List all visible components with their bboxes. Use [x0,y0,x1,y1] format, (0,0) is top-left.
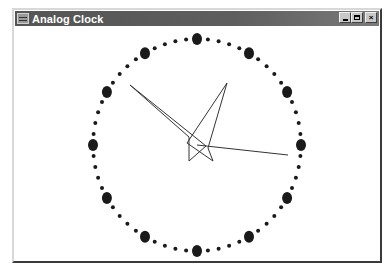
minute-marker-dot [92,154,96,158]
minute-marker-dot [118,214,122,218]
clock-face [0,2,392,275]
hour-marker-dot [282,192,292,204]
hour-hand [187,83,227,161]
minute-marker-dot [206,248,210,252]
minute-marker-dot [93,121,97,125]
hour-marker-dot [296,139,306,151]
minute-marker-dot [265,222,269,226]
hour-marker-dot [192,245,202,257]
minute-marker-dot [290,186,294,190]
minute-marker-dot [163,244,167,248]
minute-marker-dot [96,110,100,114]
minute-marker-dot [298,154,302,158]
hour-marker-dot [102,192,112,204]
minute-marker-dot [237,46,241,50]
minute-marker-dot [272,72,276,76]
minute-marker-dot [265,64,269,68]
minute-marker-dot [100,186,104,190]
minute-marker-dot [294,176,298,180]
minute-marker-dot [184,248,188,252]
minute-marker-dot [256,229,260,233]
minute-marker-dot [153,46,157,50]
minute-marker-dot [184,38,188,42]
hour-marker-dot [282,86,292,98]
minute-marker-dot [227,42,231,46]
minute-marker-dot [93,165,97,169]
minute-marker-dot [217,247,221,251]
minute-marker-dot [227,244,231,248]
minute-marker-dot [92,132,96,136]
minute-marker-dot [125,222,129,226]
minute-marker-dot [111,205,115,209]
analog-clock-window: Analog Clock × [12,8,382,263]
minute-marker-dot [100,100,104,104]
minute-marker-dot [163,42,167,46]
clock-client-area [14,27,380,261]
minute-marker-dot [297,165,301,169]
minute-marker-dot [294,110,298,114]
minute-marker-dot [279,205,283,209]
hour-marker-dot [88,139,98,151]
minute-hand [130,85,206,161]
hour-marker-dot [192,33,202,45]
minute-marker-dot [279,81,283,85]
minute-marker-dot [125,64,129,68]
minute-marker-dot [118,72,122,76]
minute-marker-dot [217,39,221,43]
hour-marker-dot [140,231,150,243]
minute-marker-dot [173,39,177,43]
minute-marker-dot [173,247,177,251]
minute-marker-dot [134,57,138,61]
minute-marker-dot [290,100,294,104]
hour-marker-dot [102,86,112,98]
minute-marker-dot [206,38,210,42]
minute-marker-dot [153,240,157,244]
minute-marker-dot [111,81,115,85]
minute-marker-dot [237,240,241,244]
minute-marker-dot [134,229,138,233]
minute-marker-dot [256,57,260,61]
hour-marker-dot [140,47,150,59]
minute-marker-dot [96,176,100,180]
minute-marker-dot [298,132,302,136]
minute-marker-dot [272,214,276,218]
minute-marker-dot [297,121,301,125]
hour-marker-dot [244,231,254,243]
hour-marker-dot [244,47,254,59]
